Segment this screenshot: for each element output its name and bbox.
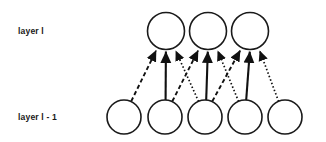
edge-solid-l3-to-u2 [246, 52, 250, 100]
network-diagram: layer l layer l - 1 [0, 0, 326, 142]
lower-layer-node-4 [268, 100, 302, 134]
edge-dotted-l2-to-u0 [176, 51, 199, 102]
lower-layer-label: layer l - 1 [18, 112, 57, 122]
upper-layer-node-1 [190, 13, 227, 50]
layer-labels: layer l layer l - 1 [18, 26, 57, 122]
upper-layer-nodes [148, 13, 269, 50]
edges-to-upper-node-2 [212, 51, 278, 102]
edge-solid-l2-to-u1 [206, 52, 208, 100]
lower-layer-node-3 [228, 100, 262, 134]
edge-layer [131, 51, 278, 102]
edge-dotted-l3-to-u1 [218, 51, 239, 102]
edge-dashed-l0-to-u0 [131, 51, 156, 102]
lower-layer-node-1 [148, 100, 182, 134]
upper-layer-node-0 [148, 13, 185, 50]
lower-layer-node-2 [188, 100, 222, 134]
edges-to-upper-node-1 [172, 51, 238, 102]
edge-dotted-l4-to-u2 [260, 51, 279, 102]
lower-layer-nodes [107, 100, 302, 134]
edge-dashed-l1-to-u1 [172, 51, 198, 102]
upper-layer-node-2 [232, 13, 269, 50]
upper-layer-label: layer l [18, 26, 44, 36]
network-diagram-canvas: layer l layer l - 1 [0, 0, 326, 142]
edges-to-upper-node-0 [131, 51, 198, 102]
lower-layer-node-0 [107, 100, 141, 134]
